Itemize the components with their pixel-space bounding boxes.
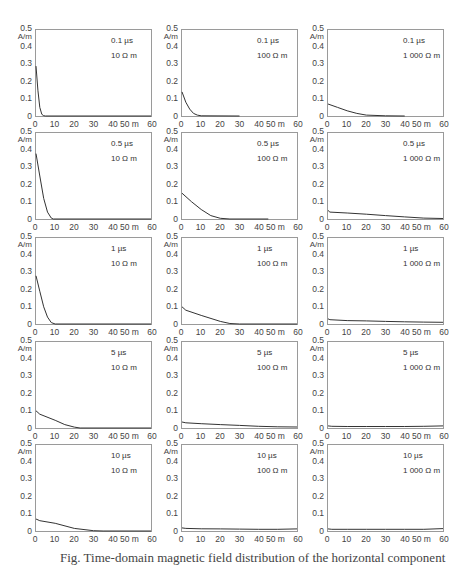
y-tick-label: 0.3: [158, 161, 178, 171]
y-tick-label: 0.2: [304, 388, 324, 398]
x-tick-label: 60: [432, 534, 456, 544]
y-tick-label: 0.2: [12, 76, 32, 86]
data-curve: [35, 341, 152, 429]
x-tick-label: 50 m: [264, 431, 288, 441]
y-axis-unit: A/m: [158, 447, 178, 456]
y-tick-label: 0.2: [158, 76, 178, 86]
chart-panel: 00.10.20.30.40.5A/m01020304050 m605 µs10…: [35, 341, 175, 445]
chart-panel: 00.10.20.30.40.5A/m01020304050 m600.5 µs…: [327, 132, 467, 236]
data-curve: [327, 444, 444, 532]
y-axis-unit: A/m: [12, 344, 32, 353]
y-tick-label: 0.3: [12, 161, 32, 171]
y-tick-label: 0.1: [304, 93, 324, 103]
x-tick-label: 50 m: [264, 327, 288, 337]
chart-panel: 00.10.20.30.40.5A/m01020304050 m6010 µs1…: [327, 444, 467, 548]
y-tick-label: 0.4: [304, 249, 324, 259]
x-tick-label: 50 m: [118, 119, 142, 129]
y-axis-unit: A/m: [158, 135, 178, 144]
x-tick-label: 50 m: [410, 222, 434, 232]
y-tick-label: 0.4: [304, 144, 324, 154]
y-tick-label: 0.1: [158, 405, 178, 415]
y-axis-unit: A/m: [158, 32, 178, 41]
data-curve: [327, 237, 444, 325]
x-tick-label: 50 m: [410, 327, 434, 337]
y-tick-label: 0.3: [158, 370, 178, 380]
x-tick-label: 60: [432, 327, 456, 337]
y-axis-unit: A/m: [12, 240, 32, 249]
x-tick-label: 50 m: [410, 431, 434, 441]
y-tick-label: 0.1: [158, 93, 178, 103]
data-curve: [327, 29, 444, 117]
figure-caption: Fig. Time-domain magnetic field distribu…: [60, 550, 445, 566]
y-tick-label: 0.1: [304, 405, 324, 415]
data-curve: [35, 237, 152, 325]
y-tick-label: 0.4: [158, 144, 178, 154]
y-tick-label: 0.1: [158, 301, 178, 311]
y-tick-label: 0.3: [304, 473, 324, 483]
x-tick-label: 50 m: [118, 431, 142, 441]
y-tick-label: 0.4: [12, 353, 32, 363]
y-tick-label: 0.1: [304, 301, 324, 311]
y-tick-label: 0.2: [12, 388, 32, 398]
chart-panel: 00.10.20.30.40.5A/m01020304050 m600.1 µs…: [181, 29, 321, 133]
y-tick-label: 0.4: [158, 249, 178, 259]
y-axis-unit: A/m: [12, 447, 32, 456]
y-tick-label: 0.3: [12, 370, 32, 380]
y-axis-unit: A/m: [304, 344, 324, 353]
x-tick-label: 60: [432, 222, 456, 232]
y-tick-label: 0.2: [304, 491, 324, 501]
data-curve: [35, 29, 152, 117]
y-tick-label: 0.4: [12, 41, 32, 51]
chart-panel: 00.10.20.30.40.5A/m01020304050 m600.1 µs…: [327, 29, 467, 133]
x-tick-label: 50 m: [118, 327, 142, 337]
x-tick-label: 50 m: [264, 119, 288, 129]
y-tick-label: 0.1: [12, 508, 32, 518]
y-tick-label: 0.4: [158, 353, 178, 363]
chart-panel: 00.10.20.30.40.5A/m01020304050 m605 µs10…: [181, 341, 321, 445]
chart-panel: 00.10.20.30.40.5A/m01020304050 m6010 µs1…: [35, 444, 175, 548]
y-axis-unit: A/m: [12, 135, 32, 144]
y-tick-label: 0.1: [12, 301, 32, 311]
chart-panel: 00.10.20.30.40.5A/m01020304050 m600.5 µs…: [181, 132, 321, 236]
x-tick-label: 50 m: [410, 119, 434, 129]
y-tick-label: 0.3: [304, 370, 324, 380]
y-axis-unit: A/m: [304, 447, 324, 456]
data-curve: [181, 237, 298, 325]
y-tick-label: 0.3: [158, 58, 178, 68]
y-tick-label: 0.4: [304, 353, 324, 363]
y-tick-label: 0.4: [12, 249, 32, 259]
y-tick-label: 0.3: [12, 58, 32, 68]
y-tick-label: 0.3: [12, 266, 32, 276]
y-tick-label: 0.2: [158, 179, 178, 189]
chart-panel: 00.10.20.30.40.5A/m01020304050 m601 µs10…: [35, 237, 175, 341]
y-tick-label: 0.3: [158, 473, 178, 483]
y-tick-label: 0.4: [158, 41, 178, 51]
data-curve: [181, 341, 298, 429]
x-tick-label: 50 m: [410, 534, 434, 544]
y-tick-label: 0.3: [158, 266, 178, 276]
y-axis-unit: A/m: [158, 344, 178, 353]
y-tick-label: 0.2: [304, 76, 324, 86]
data-curve: [35, 132, 152, 220]
y-tick-label: 0.2: [12, 179, 32, 189]
data-curve: [35, 444, 152, 532]
y-tick-label: 0.2: [12, 491, 32, 501]
y-tick-label: 0.2: [12, 284, 32, 294]
data-curve: [181, 132, 298, 220]
y-tick-label: 0.1: [12, 405, 32, 415]
chart-panel: 00.10.20.30.40.5A/m01020304050 m600.5 µs…: [35, 132, 175, 236]
chart-panel: 00.10.20.30.40.5A/m01020304050 m601 µs1 …: [327, 237, 467, 341]
x-tick-label: 50 m: [264, 222, 288, 232]
y-tick-label: 0.2: [158, 491, 178, 501]
x-tick-label: 50 m: [118, 222, 142, 232]
y-tick-label: 0.4: [12, 144, 32, 154]
x-tick-label: 60: [432, 431, 456, 441]
y-tick-label: 0.3: [304, 266, 324, 276]
y-tick-label: 0.4: [12, 456, 32, 466]
y-tick-label: 0.1: [304, 196, 324, 206]
y-axis-unit: A/m: [304, 135, 324, 144]
chart-panel: 00.10.20.30.40.5A/m01020304050 m6010 µs1…: [181, 444, 321, 548]
y-tick-label: 0.3: [12, 473, 32, 483]
x-tick-label: 50 m: [118, 534, 142, 544]
y-tick-label: 0.4: [158, 456, 178, 466]
